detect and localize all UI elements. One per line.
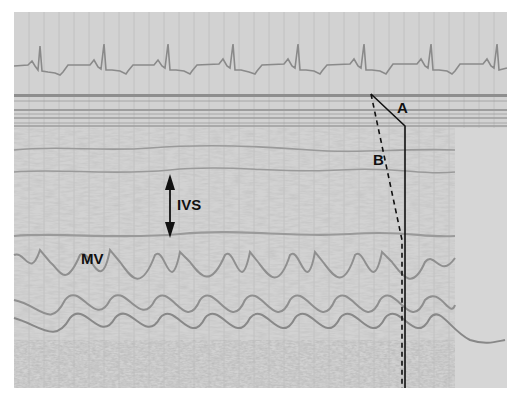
posterior-wall-speckle bbox=[14, 340, 455, 388]
transducer-line bbox=[14, 94, 507, 97]
tissue-echo-region-right bbox=[455, 128, 507, 388]
label-mv: MV bbox=[81, 251, 104, 266]
label-a: A bbox=[397, 100, 408, 115]
label-b: B bbox=[373, 152, 384, 167]
echocardiogram-figure bbox=[0, 0, 520, 403]
label-ivs: IVS bbox=[177, 197, 201, 212]
